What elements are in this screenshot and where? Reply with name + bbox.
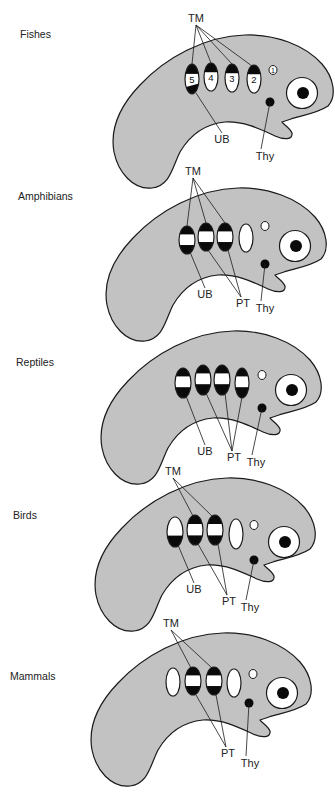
pouch-number: 1 (271, 67, 275, 74)
pouch-number: 3 (229, 73, 234, 84)
pharyngeal-pouch (234, 368, 250, 398)
pharyngeal-pouch (174, 368, 192, 398)
eye-icon (269, 527, 300, 558)
ub-label: UB (197, 445, 212, 457)
pharyngeal-pouch (197, 223, 215, 251)
pharyngeal-pouch (186, 515, 204, 545)
panel-reptiles: ReptilesUBPTThy (16, 331, 321, 484)
thy-label: Thy (256, 150, 275, 162)
group-label: Amphibians (18, 190, 73, 202)
tm-label: TM (163, 617, 179, 629)
tm-label: TM (165, 465, 181, 477)
pharyngeal-pouch (205, 667, 223, 695)
first-pouch (249, 670, 257, 679)
pouch-number: 2 (251, 74, 256, 85)
panel-fishes: Fishes54321TMUBThy (20, 12, 333, 188)
ub-label: UB (214, 133, 229, 145)
pt-label: PT (221, 747, 235, 759)
pharyngeal-pouch (227, 669, 241, 697)
pouch-number: 4 (208, 72, 213, 83)
pharyngeal-pouch (229, 519, 243, 549)
tm-label: TM (185, 165, 201, 177)
pharyngeal-pouch (213, 365, 231, 395)
group-label: Mammals (10, 670, 56, 682)
pharyngeal-pouch (194, 365, 212, 395)
pharyngeal-pouch (184, 667, 202, 695)
eye-icon (280, 231, 311, 262)
pharyngeal-pouch: 2 (246, 65, 262, 93)
panel-birds: BirdsTMUBPTThy (13, 465, 315, 631)
panel-mammals: MammalsTMPTThy (10, 617, 311, 786)
eye-icon (287, 78, 318, 109)
panel-amphibians: AmphibiansTMUBPTThy (18, 165, 326, 341)
thy-label: Thy (247, 456, 266, 468)
pt-label: PT (236, 297, 250, 309)
pharyngeal-pouch (166, 517, 184, 547)
thy-label: Thy (241, 601, 260, 613)
pharyngeal-pouch-diagram: Fishes54321TMUBThyAmphibiansTMUBPTThyRep… (0, 0, 335, 799)
first-pouch (250, 521, 258, 530)
ub-label: UB (186, 583, 201, 595)
first-pouch (261, 222, 269, 231)
tm-label: TM (188, 12, 204, 24)
group-label: Fishes (20, 28, 51, 40)
eye-icon (267, 678, 298, 709)
group-label: Reptiles (16, 356, 54, 368)
thy-label: Thy (241, 757, 260, 769)
group-label: Birds (13, 509, 37, 521)
pharyngeal-pouch: 5 (184, 64, 200, 94)
ub-label: UB (197, 288, 212, 300)
pharyngeal-pouch (166, 668, 180, 696)
embryo-body (101, 331, 321, 484)
pouch-number: 5 (189, 74, 194, 85)
thy-label: Thy (256, 302, 275, 314)
first-pouch (258, 371, 266, 380)
pharyngeal-pouch (216, 223, 234, 251)
embryo-body (113, 35, 333, 188)
pharyngeal-pouch (239, 224, 253, 252)
embryo-body (91, 633, 311, 786)
pt-label: PT (222, 595, 236, 607)
eye-icon (276, 375, 307, 406)
pharyngeal-pouch (206, 515, 224, 545)
pharyngeal-pouch: 3 (224, 64, 240, 92)
pharyngeal-pouch: 4 (203, 63, 219, 91)
pt-label: PT (227, 451, 241, 463)
pharyngeal-pouch (178, 226, 196, 254)
